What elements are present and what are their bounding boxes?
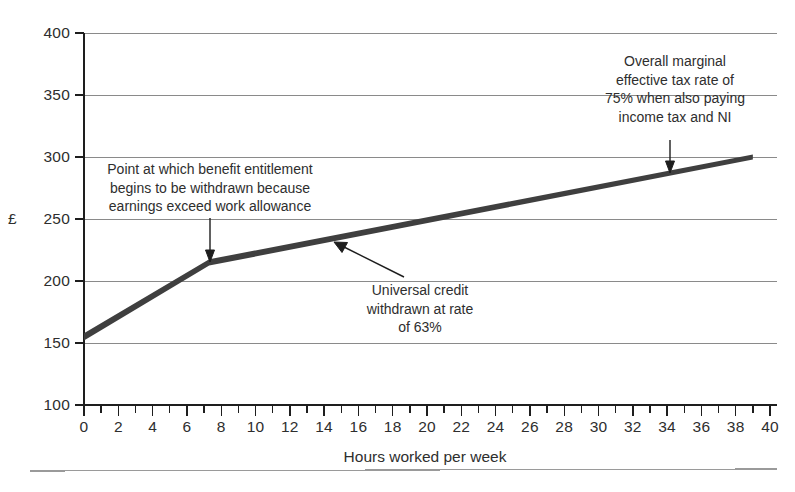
annotation-work-allowance-line-3: earnings exceed work allowance [90,197,330,216]
y-tick-label-250: 250 [24,210,70,228]
x-tick-label-18: 18 [380,418,406,436]
x-tick-label-8: 8 [208,418,234,436]
x-tick-label-32: 32 [620,418,646,436]
annotation-uc-taper-line-2: withdrawn at rate [330,300,510,319]
x-tick-label-4: 4 [140,418,166,436]
annotation-metr: Overall marginal effective tax rate of 7… [580,52,770,126]
y-axis-ticks [75,33,84,405]
x-tick-label-10: 10 [243,418,269,436]
annotation-work-allowance-line-1: Point at which benefit entitlement [90,160,330,179]
footer-rule [30,469,777,471]
x-axis-ticks [84,405,770,416]
x-tick-label-20: 20 [414,418,440,436]
annotation-uc-taper: Universal credit withdrawn at rate of 63… [330,281,510,337]
x-tick-label-30: 30 [586,418,612,436]
y-tick-label-400: 400 [24,24,70,42]
x-tick-label-28: 28 [551,418,577,436]
x-tick-label-2: 2 [105,418,131,436]
x-tick-label-12: 12 [277,418,303,436]
annotation-work-allowance-line-2: begins to be withdrawn because [90,179,330,198]
y-tick-label-300: 300 [24,148,70,166]
annotation-metr-line-1: Overall marginal [580,52,770,71]
x-tick-label-36: 36 [688,418,714,436]
annotation-metr-line-4: income tax and NI [580,108,770,127]
leader-uc-taper [344,247,404,277]
y-tick-label-150: 150 [24,334,70,352]
x-tick-label-40: 40 [757,418,783,436]
annotation-work-allowance: Point at which benefit entitlement begin… [90,160,330,216]
annotation-metr-line-2: effective tax rate of [580,71,770,90]
x-tick-label-6: 6 [174,418,200,436]
x-tick-label-14: 14 [311,418,337,436]
x-tick-label-24: 24 [483,418,509,436]
y-axis-unit-label: £ [8,210,17,228]
annotation-metr-line-3: 75% when also paying [580,89,770,108]
annotation-uc-taper-line-1: Universal credit [330,281,510,300]
x-tick-label-26: 26 [517,418,543,436]
x-tick-label-22: 22 [448,418,474,436]
x-tick-label-0: 0 [71,418,97,436]
x-axis-title: Hours worked per week [255,448,595,466]
x-tick-label-16: 16 [345,418,371,436]
y-tick-label-350: 350 [24,86,70,104]
x-tick-label-38: 38 [723,418,749,436]
x-tick-label-34: 34 [654,418,680,436]
y-tick-label-200: 200 [24,272,70,290]
chart-container: 400 350 300 250 200 150 100 £ 0246810121… [0,0,795,492]
annotation-uc-taper-line-3: of 63% [330,318,510,337]
y-tick-label-100: 100 [24,396,70,414]
